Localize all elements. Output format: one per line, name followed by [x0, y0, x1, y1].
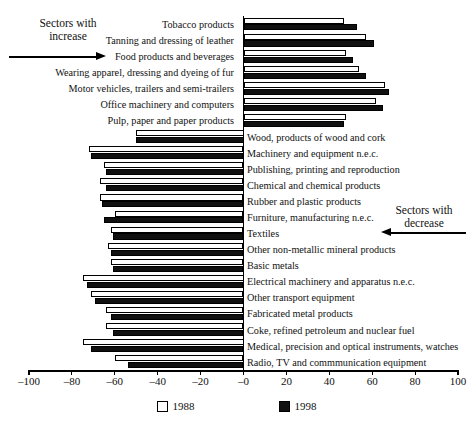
bar-1988	[244, 98, 377, 104]
legend-swatch-icon	[157, 401, 168, 412]
bar-row: Fabricated metal products	[0, 305, 473, 322]
annotation-increase-line1: Sectors with	[8, 17, 128, 30]
bar-1998	[128, 362, 244, 368]
category-label: Other non-metallic mineral products	[247, 241, 396, 258]
bar-row: Wood, products of wood and cork	[0, 129, 473, 146]
bar-row: Pulp, paper and paper products	[0, 112, 473, 129]
bar-1998	[244, 73, 366, 79]
bar-row: Basic metals	[0, 257, 473, 274]
bar-row: Other transport equipment	[0, 289, 473, 306]
category-label: Medical, precision and optical instrumen…	[247, 338, 458, 355]
x-axis-tick-label: –20	[181, 375, 221, 387]
bar-1988	[115, 211, 244, 217]
bar-1988	[106, 323, 243, 329]
bar-1988	[111, 259, 244, 265]
category-label: Wearing apparel, dressing and dyeing of …	[55, 64, 234, 81]
chart-root: –100–80–60–40–20–020406080100 Tobacco pr…	[0, 0, 473, 428]
bar-1998	[244, 40, 375, 46]
x-axis-tick-label: 40	[309, 375, 349, 387]
bar-1998	[111, 314, 244, 320]
category-label: Office machinery and computers	[100, 96, 234, 113]
bar-1998	[244, 121, 345, 127]
bar-1998	[136, 137, 243, 143]
annotation-decrease-line2: decrease	[378, 217, 470, 230]
annotation-decrease-line1: Sectors with	[378, 204, 470, 217]
legend-label: 1998	[295, 400, 317, 412]
bar-1988	[136, 130, 243, 136]
bar-1998	[113, 233, 244, 239]
bar-1988	[244, 50, 347, 56]
x-axis-tick-label: 100	[438, 375, 473, 387]
category-label: Coke, refined petroleum and nuclear fuel	[247, 322, 414, 339]
bar-row: Chemical and chemical products	[0, 177, 473, 194]
bar-1988	[115, 355, 244, 361]
bar-1998	[106, 185, 243, 191]
bar-row: Radio, TV and commmunication equipment	[0, 354, 473, 371]
bar-row: Coke, refined petroleum and nuclear fuel	[0, 322, 473, 339]
bar-1998	[244, 105, 383, 111]
bar-1998	[244, 24, 358, 30]
bar-1988	[244, 18, 345, 24]
bar-1988	[104, 162, 243, 168]
bar-1998	[244, 89, 390, 95]
bar-1988	[91, 291, 243, 297]
bar-1988	[83, 275, 244, 281]
category-label: Machinery and equipment n.e.c.	[247, 145, 378, 162]
bar-1988	[244, 114, 347, 120]
bar-1988	[83, 339, 244, 345]
bar-1998	[113, 330, 244, 336]
bar-1998	[87, 282, 244, 288]
category-label: Motor vehicles, trailers and semi-traile…	[69, 80, 235, 97]
bar-1998	[244, 57, 353, 63]
category-label: Rubber and plastic products	[247, 193, 361, 210]
legend-swatch-icon	[279, 401, 290, 412]
category-label: Publishing, printing and reproduction	[247, 161, 400, 178]
bar-1988	[100, 178, 244, 184]
bar-1998	[111, 250, 244, 256]
bar-1988	[106, 307, 243, 313]
chart-legend: 19881998	[0, 396, 473, 416]
arrow-left-icon	[390, 232, 466, 234]
category-label: Tobacco products	[162, 16, 234, 33]
bar-1998	[91, 346, 243, 352]
legend-item: 1998	[279, 400, 317, 412]
annotation-increase: Sectors with increase	[8, 17, 128, 43]
bar-row: Office machinery and computers	[0, 96, 473, 113]
bar-1998	[95, 298, 243, 304]
x-axis-tick-label: 20	[266, 375, 306, 387]
bar-row: Motor vehicles, trailers and semi-traile…	[0, 80, 473, 97]
bar-1988	[244, 34, 366, 40]
category-label: Radio, TV and commmunication equipment	[247, 354, 426, 371]
bar-row: Electrical machinery and apparatus n.e.c…	[0, 273, 473, 290]
category-label: Basic metals	[247, 257, 299, 274]
x-axis-tick-label: 80	[395, 375, 435, 387]
category-label: Textiles	[247, 225, 279, 242]
x-axis-tick-label: –80	[52, 375, 92, 387]
x-axis-tick-label: 60	[352, 375, 392, 387]
bar-1988	[111, 227, 244, 233]
x-axis-tick-label: –100	[9, 375, 49, 387]
bar-row: Publishing, printing and reproduction	[0, 161, 473, 178]
annotation-increase-line2: increase	[8, 30, 128, 43]
category-label: Chemical and chemical products	[247, 177, 380, 194]
bar-row: Medical, precision and optical instrumen…	[0, 338, 473, 355]
category-label: Wood, products of wood and cork	[247, 129, 385, 146]
bar-1988	[244, 82, 386, 88]
category-label: Electrical machinery and apparatus n.e.c…	[247, 273, 415, 290]
bar-row: Other non-metallic mineral products	[0, 241, 473, 258]
x-axis-tick-label: –0	[224, 375, 264, 387]
bar-1988	[89, 146, 243, 152]
bar-1998	[91, 153, 243, 159]
annotation-decrease: Sectors with decrease	[378, 204, 470, 230]
bar-1988	[100, 194, 244, 200]
bar-row: Machinery and equipment n.e.c.	[0, 145, 473, 162]
category-label: Fabricated metal products	[247, 305, 353, 322]
bar-1998	[104, 217, 243, 223]
arrow-right-icon	[9, 56, 97, 58]
category-label: Food products and beverages	[115, 48, 234, 65]
bar-1998	[102, 201, 244, 207]
legend-label: 1988	[173, 400, 195, 412]
bar-1998	[113, 266, 244, 272]
bar-1998	[106, 169, 243, 175]
category-label: Pulp, paper and paper products	[108, 112, 234, 129]
